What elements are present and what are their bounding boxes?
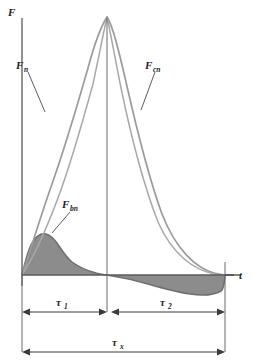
curve-label-fn-base: F xyxy=(15,59,24,71)
interval-label-tau2-sub: 2 xyxy=(167,302,172,311)
interval-label-tau1-sub: 1 xyxy=(64,302,68,311)
fbn-leader-line xyxy=(52,212,70,233)
interval-label-taux-base: τ xyxy=(112,336,118,348)
interval-label-tau2-base: τ xyxy=(160,296,166,308)
taux-left-arrowhead xyxy=(22,349,30,356)
force-time-chart: F t F n F cn F bn τ 1 τ 2 τ xyxy=(0,0,260,361)
tau2-left-arrowhead xyxy=(111,309,119,316)
curve-label-fbn-sub: bn xyxy=(70,204,78,213)
taux-right-arrowhead xyxy=(217,349,225,356)
fcn-leader-line xyxy=(141,72,155,110)
interval-label-tau2: τ 2 xyxy=(160,296,172,311)
dimension-row-tau1-tau2 xyxy=(22,309,225,316)
fn-leader-line xyxy=(28,72,45,112)
interval-label-tau1-base: τ xyxy=(56,296,62,308)
fn-curve xyxy=(22,17,225,275)
interval-label-taux: τ x xyxy=(112,336,124,351)
tau2-right-arrowhead xyxy=(217,309,225,316)
x-axis-label: t xyxy=(239,269,243,281)
curve-label-fn-sub: n xyxy=(24,65,28,74)
tau1-left-arrowhead xyxy=(22,309,30,316)
curve-label-fbn-base: F xyxy=(61,198,70,210)
curve-label-fbn: F bn xyxy=(61,198,78,213)
curve-label-fcn-sub: cn xyxy=(153,65,161,74)
figure-container: F t F n F cn F bn τ 1 τ 2 τ xyxy=(0,0,260,361)
curve-label-fcn-base: F xyxy=(144,59,153,71)
tau1-right-arrowhead xyxy=(99,309,107,316)
interval-label-tau1: τ 1 xyxy=(56,296,68,311)
y-axis-label: F xyxy=(7,6,16,18)
plot-area xyxy=(22,17,225,295)
curve-label-fcn: F cn xyxy=(144,59,161,74)
interval-label-taux-sub: x xyxy=(119,342,124,351)
fcn-curve xyxy=(22,17,225,275)
